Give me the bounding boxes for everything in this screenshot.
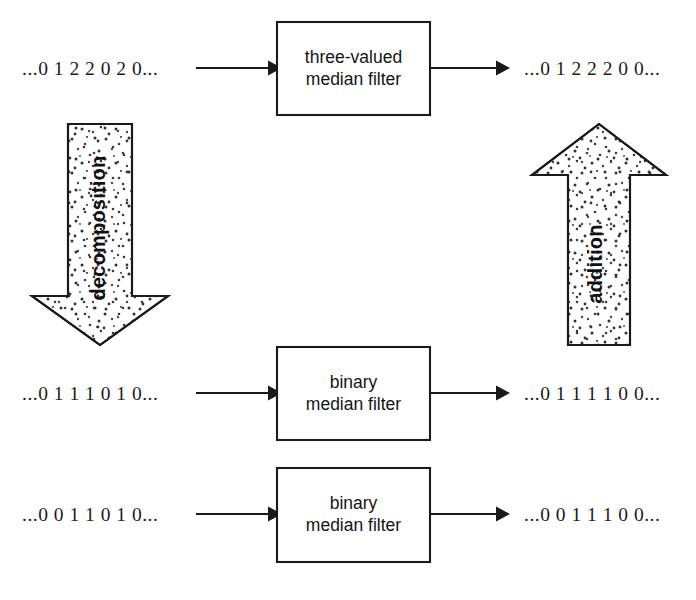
addition-arrow: addition	[532, 124, 666, 345]
row-middle-input-label: ...0 1 1 1 0 1 0...	[22, 383, 158, 404]
row-top-input-arrow	[196, 61, 282, 76]
addition-arrow-label: addition	[584, 224, 606, 303]
row-top: ...0 1 2 2 0 2 0... three-valued median …	[22, 22, 660, 115]
row-top-input-label: ...0 1 2 2 0 2 0...	[22, 58, 158, 79]
row-middle-filter-label-line2: median filter	[306, 394, 401, 414]
row-bottom-filter-label-line1: binary	[330, 493, 378, 513]
decomposition-arrow: decomposition	[32, 124, 168, 345]
row-middle-output-label: ...0 1 1 1 1 0 0...	[524, 383, 660, 404]
diagram-canvas: ...0 1 2 2 0 2 0... three-valued median …	[0, 0, 696, 600]
threshold-decomposition-diagram: ...0 1 2 2 0 2 0... three-valued median …	[0, 0, 696, 600]
row-top-filter-label-line2: median filter	[306, 69, 401, 89]
row-bottom-output-label: ...0 0 1 1 1 0 0...	[524, 504, 660, 525]
decomposition-arrow-label: decomposition	[87, 156, 109, 301]
row-top-output-label: ...0 1 2 2 2 0 0...	[524, 58, 660, 79]
row-bottom-input-arrow	[196, 507, 282, 522]
row-middle-filter-label-line1: binary	[330, 372, 378, 392]
row-bottom-output-arrow	[430, 507, 510, 522]
row-top-filter-label-line1: three-valued	[305, 47, 402, 67]
row-top-output-arrow	[430, 61, 510, 76]
row-middle-input-arrow	[196, 386, 282, 401]
row-bottom: ...0 0 1 1 0 1 0... binary median filter…	[22, 468, 660, 562]
row-middle: ...0 1 1 1 0 1 0... binary median filter…	[22, 347, 660, 440]
row-bottom-filter-label-line2: median filter	[306, 515, 401, 535]
row-bottom-input-label: ...0 0 1 1 0 1 0...	[22, 504, 158, 525]
row-middle-output-arrow	[430, 386, 510, 401]
